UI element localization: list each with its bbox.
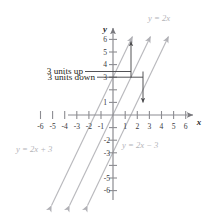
x-tick-label: 4 <box>160 122 164 131</box>
y-tick-label: -5 <box>104 174 111 183</box>
annotation-3-units-down: 3 units down <box>48 72 96 82</box>
axes <box>68 28 193 200</box>
x-tick-label: 2 <box>135 122 139 131</box>
y-tick-label: -3 <box>104 149 111 158</box>
x-tick-label: 6 <box>184 122 188 131</box>
coordinate-plane: -6 -5 -4 -3 -2 -1 1 2 3 4 5 6 6 5 4 3 1 … <box>0 0 213 220</box>
y-tick-label: 6 <box>103 35 107 44</box>
x-tick-label: -6 <box>37 122 44 131</box>
graph-figure: -6 -5 -4 -3 -2 -1 1 2 3 4 5 6 6 5 4 3 1 … <box>0 0 213 220</box>
x-tick-label: 5 <box>172 122 176 131</box>
y-tick-label: 3 <box>103 73 107 82</box>
y-axis-label: y <box>102 24 108 34</box>
x-tick-label: -5 <box>49 122 56 131</box>
x-tick-label: 1 <box>123 122 127 131</box>
x-tick-label: -4 <box>62 122 69 131</box>
x-tick-label: 3 <box>148 122 152 131</box>
label-line-y-equals-2x-plus-3: y = 2x + 3 <box>15 144 52 154</box>
y-tick-label: 4 <box>103 60 107 69</box>
x-axis-label: x <box>196 117 202 127</box>
x-tick-label: -2 <box>86 122 93 131</box>
y-tick-label: 1 <box>103 98 107 107</box>
y-tick-label: 5 <box>103 48 107 57</box>
y-tick-label: -2 <box>104 136 111 145</box>
label-line-y-equals-2x: y = 2x <box>147 13 170 23</box>
label-line-y-equals-2x-minus-3: y = 2x − 3 <box>121 140 158 150</box>
x-tick-label: -1 <box>98 122 105 131</box>
x-tick-label: -3 <box>74 122 81 131</box>
y-tick-label: -6 <box>104 186 111 195</box>
